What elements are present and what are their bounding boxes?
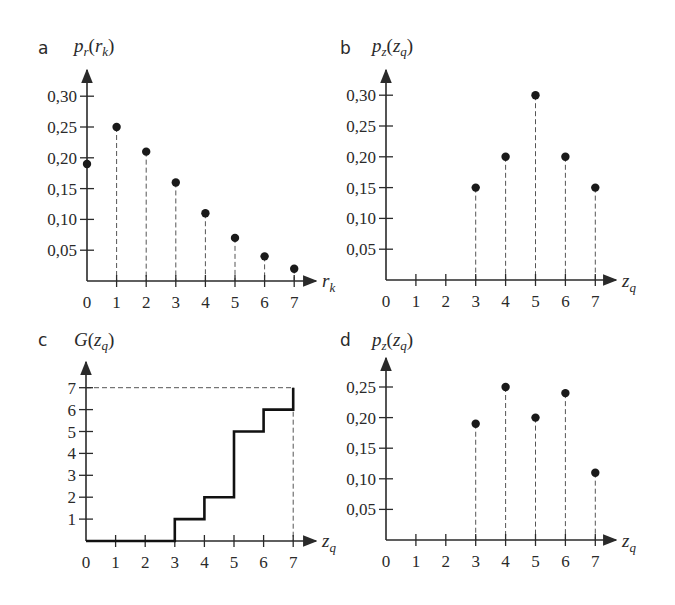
y-tick-label: 0,25 [346, 378, 376, 397]
axes-a: 012345670,050,100,150,200,250,30 [47, 70, 316, 312]
y-tick-label: 0,15 [346, 439, 376, 458]
y-tick-label: 0,25 [47, 118, 77, 137]
data-point [472, 183, 480, 191]
data-point [112, 123, 120, 131]
x-tick-label: 5 [231, 293, 240, 312]
panel-letter-d: d [340, 330, 351, 350]
y-tick-label: 4 [68, 444, 77, 463]
data-point [531, 413, 539, 421]
data-point [83, 160, 91, 168]
data-point [142, 147, 150, 155]
x-axis-title-c: zq [321, 530, 336, 555]
y-tick-label: 0,05 [346, 500, 376, 519]
x-tick-label: 5 [230, 553, 239, 572]
data-point [561, 389, 569, 397]
x-tick-label: 7 [290, 293, 299, 312]
y-tick-label: 0,25 [346, 117, 376, 136]
x-tick-label: 2 [442, 292, 451, 311]
x-tick-label: 1 [412, 552, 421, 571]
y-tick-label: 3 [68, 466, 77, 485]
x-tick-label: 6 [561, 292, 570, 311]
axes-c: 012345671234567 [68, 362, 317, 572]
y-tick-label: 0,20 [346, 148, 376, 167]
y-axis-title-c: G(zq) [74, 329, 114, 353]
data-point [201, 209, 209, 217]
y-tick-label: 6 [68, 401, 77, 420]
x-tick-label: 3 [471, 552, 480, 571]
panel-a: a pr(rk) 012345670,050,100,150,200,250,3… [38, 35, 335, 312]
x-tick-label: 4 [200, 553, 209, 572]
y-tick-label: 1 [68, 510, 77, 529]
figure: a pr(rk) 012345670,050,100,150,200,250,3… [0, 0, 675, 605]
x-tick-label: 7 [591, 292, 600, 311]
x-axis-title-d: zq [621, 530, 636, 555]
panel-c: c G(zq) 012345671234567 zq [38, 329, 336, 572]
y-tick-label: 0,05 [346, 240, 376, 259]
x-tick-label: 7 [591, 552, 600, 571]
x-tick-label: 2 [142, 293, 151, 312]
panel-d: d pz(zq) 012345670,050,100,150,200,25 zq [340, 329, 636, 571]
y-tick-label: 0,20 [47, 149, 77, 168]
panel-letter-c: c [38, 330, 47, 350]
y-tick-label: 0,30 [47, 87, 77, 106]
y-tick-label: 0,15 [47, 180, 77, 199]
x-tick-label: 4 [501, 552, 510, 571]
data-point [290, 264, 298, 272]
y-tick-label: 0,10 [346, 470, 376, 489]
data-point [260, 252, 268, 260]
data-point [501, 383, 509, 391]
data-point [531, 91, 539, 99]
panel-b: b pz(zq) 012345670,050,100,150,200,250,3… [340, 35, 636, 311]
data-point [172, 178, 180, 186]
y-axis-title-a: pr(rk) [72, 35, 114, 59]
x-tick-label: 3 [171, 553, 180, 572]
y-tick-label: 0,10 [47, 210, 77, 229]
axes-d: 012345670,050,100,150,200,25 [346, 358, 616, 571]
y-tick-label: 0,10 [346, 209, 376, 228]
x-tick-label: 7 [289, 553, 298, 572]
x-tick-label: 5 [531, 552, 540, 571]
y-axis-title-d: pz(zq) [370, 329, 413, 353]
data-point [472, 420, 480, 428]
y-tick-label: 0,15 [346, 179, 376, 198]
x-tick-label: 3 [471, 292, 480, 311]
y-tick-label: 2 [68, 488, 77, 507]
data-point [591, 183, 599, 191]
x-tick-label: 6 [260, 293, 269, 312]
data-point [231, 234, 239, 242]
y-axis-title-b: pz(zq) [370, 35, 413, 59]
y-tick-label: 5 [68, 423, 77, 442]
axes-b: 012345670,050,100,150,200,250,30 [346, 70, 616, 311]
panel-letter-b: b [340, 38, 351, 58]
x-tick-label: 1 [111, 553, 120, 572]
step-line [86, 388, 293, 541]
x-tick-label: 4 [501, 292, 510, 311]
data-point [591, 468, 599, 476]
x-tick-label: 3 [172, 293, 181, 312]
x-tick-label: 0 [83, 293, 92, 312]
x-tick-label: 2 [442, 552, 451, 571]
x-tick-label: 5 [531, 292, 540, 311]
x-axis-title-b: zq [621, 270, 636, 295]
x-tick-label: 0 [82, 553, 91, 572]
x-tick-label: 6 [561, 552, 570, 571]
x-tick-label: 0 [382, 292, 391, 311]
data-point [501, 153, 509, 161]
x-tick-label: 4 [201, 293, 210, 312]
x-tick-label: 1 [412, 292, 421, 311]
x-tick-label: 2 [141, 553, 150, 572]
y-tick-label: 7 [68, 379, 77, 398]
x-tick-label: 0 [382, 552, 391, 571]
x-tick-label: 1 [112, 293, 121, 312]
x-tick-label: 6 [259, 553, 268, 572]
y-tick-label: 0,20 [346, 409, 376, 428]
y-tick-label: 0,05 [47, 241, 77, 260]
data-point [561, 153, 569, 161]
x-axis-title-a: rk [322, 270, 335, 295]
panel-letter-a: a [38, 38, 48, 58]
y-tick-label: 0,30 [346, 86, 376, 105]
